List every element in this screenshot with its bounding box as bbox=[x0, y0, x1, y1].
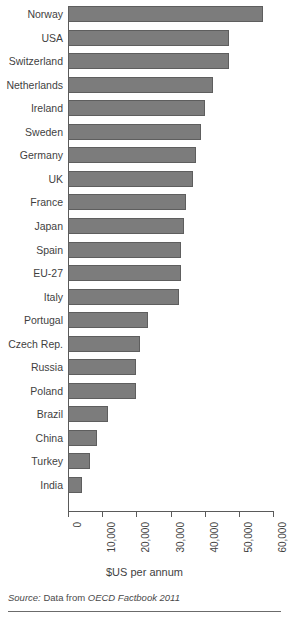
category-label: France bbox=[0, 194, 63, 210]
bar bbox=[68, 194, 186, 210]
category-label: Portugal bbox=[0, 312, 63, 328]
category-label: Brazil bbox=[0, 406, 63, 422]
bar bbox=[68, 6, 263, 22]
category-label: EU-27 bbox=[0, 265, 63, 281]
bar bbox=[68, 30, 229, 46]
x-tick-label: 60,000 bbox=[277, 522, 288, 553]
category-label: Switzerland bbox=[0, 53, 63, 69]
bar bbox=[68, 242, 181, 258]
bar bbox=[68, 77, 213, 93]
category-label: Czech Rep. bbox=[0, 336, 63, 352]
category-label: Spain bbox=[0, 242, 63, 258]
x-tick-mark bbox=[273, 511, 274, 517]
source-label: Source: bbox=[8, 592, 41, 603]
bar bbox=[68, 218, 184, 234]
x-tick-mark bbox=[239, 511, 240, 517]
category-label: UK bbox=[0, 171, 63, 187]
x-tick-label: 30,000 bbox=[175, 522, 186, 553]
x-tick-mark bbox=[136, 511, 137, 517]
bar bbox=[68, 477, 82, 493]
x-tick-label: 50,000 bbox=[243, 522, 254, 553]
x-axis-title: $US per annum bbox=[0, 566, 289, 578]
bar bbox=[68, 430, 97, 446]
bar bbox=[68, 124, 201, 140]
x-tick-label: 0 bbox=[72, 522, 83, 528]
category-label: Italy bbox=[0, 289, 63, 305]
x-tick-mark bbox=[102, 511, 103, 517]
bar bbox=[68, 289, 179, 305]
category-label: Norway bbox=[0, 6, 63, 22]
bar bbox=[68, 100, 205, 116]
category-label: Germany bbox=[0, 147, 63, 163]
bar-chart-figure: 010,00020,00030,00040,00050,00060,000 No… bbox=[0, 0, 289, 620]
bar bbox=[68, 147, 196, 163]
bar bbox=[68, 265, 181, 281]
x-tick-label: 40,000 bbox=[209, 522, 220, 553]
x-tick-mark bbox=[171, 511, 172, 517]
source-work-title: OECD Factbook 2011 bbox=[88, 592, 180, 603]
category-label: Sweden bbox=[0, 124, 63, 140]
bar bbox=[68, 53, 229, 69]
bar bbox=[68, 312, 148, 328]
bar bbox=[68, 453, 90, 469]
bar bbox=[68, 406, 108, 422]
category-label: India bbox=[0, 477, 63, 493]
category-label: Netherlands bbox=[0, 77, 63, 93]
x-tick-mark bbox=[205, 511, 206, 517]
source-prefix: Data from bbox=[43, 592, 85, 603]
category-label: Turkey bbox=[0, 453, 63, 469]
bar bbox=[68, 359, 136, 375]
category-label: Japan bbox=[0, 218, 63, 234]
source-note: Source: Data from OECD Factbook 2011 bbox=[8, 592, 180, 603]
x-tick-mark bbox=[68, 511, 69, 517]
x-tick-label: 20,000 bbox=[140, 522, 151, 553]
x-tick-label: 10,000 bbox=[106, 522, 117, 553]
category-label: Poland bbox=[0, 383, 63, 399]
plot-area: 010,00020,00030,00040,00050,00060,000 bbox=[68, 6, 289, 512]
bar bbox=[68, 171, 193, 187]
bar bbox=[68, 336, 140, 352]
category-label: Ireland bbox=[0, 100, 63, 116]
category-label: China bbox=[0, 430, 63, 446]
category-label: USA bbox=[0, 30, 63, 46]
category-label: Russia bbox=[0, 359, 63, 375]
source-divider bbox=[8, 611, 281, 612]
bar bbox=[68, 383, 136, 399]
